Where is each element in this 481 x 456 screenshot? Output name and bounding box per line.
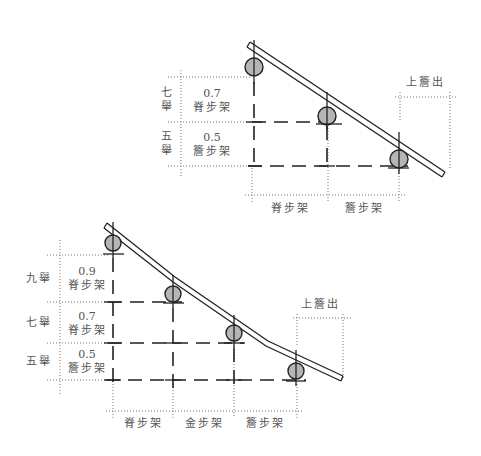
overhang-label: 上簷出 <box>301 297 340 311</box>
level-label-char: 舉 <box>161 100 174 113</box>
level-label-char: 七 <box>161 86 174 99</box>
bottom-step-label: 簷步架 <box>345 201 384 215</box>
diagram-top: 七 舉 五 舉 0.7 脊步架 0.5 簷步架 脊步架 簷步架 上簷出 <box>161 40 456 215</box>
step-label: 簷步架 <box>193 144 232 158</box>
step-label: 脊步架 <box>68 278 107 292</box>
rafter-end <box>442 172 445 177</box>
level-label-char: 舉 <box>161 144 174 157</box>
rafter-edge <box>250 42 445 172</box>
level-label: 五舉 <box>26 355 52 368</box>
ratio-label: 0.5 <box>203 131 221 144</box>
level-label: 七舉 <box>26 316 52 329</box>
overhang-label: 上簷出 <box>406 75 445 89</box>
step-label: 簷步架 <box>68 361 107 375</box>
bottom-step-label: 金步架 <box>185 416 224 430</box>
bottom-step-label: 簷步架 <box>246 416 285 430</box>
ratio-label: 0.5 <box>78 348 96 361</box>
level-label-char: 五 <box>161 130 174 143</box>
rafter-end <box>104 223 107 228</box>
bottom-step-label: 脊步架 <box>124 416 163 430</box>
roof-pitch-diagrams: 七 舉 五 舉 0.7 脊步架 0.5 簷步架 脊步架 簷步架 上簷出 <box>0 0 481 456</box>
rafter-end <box>247 42 250 47</box>
rafter-end <box>341 376 343 381</box>
diagram-bottom: 九舉 七舉 五舉 0.9 脊步架 0.7 脊步架 0.5 簷步架 脊步架 金步架… <box>26 222 352 430</box>
step-label: 脊步架 <box>68 323 107 337</box>
ratio-label: 0.9 <box>78 265 96 278</box>
ratio-label: 0.7 <box>78 310 96 323</box>
bottom-step-label: 脊步架 <box>271 201 310 215</box>
step-label: 脊步架 <box>193 100 232 114</box>
ratio-label: 0.7 <box>203 87 221 100</box>
rafter <box>247 47 442 177</box>
level-label: 九舉 <box>26 272 52 285</box>
